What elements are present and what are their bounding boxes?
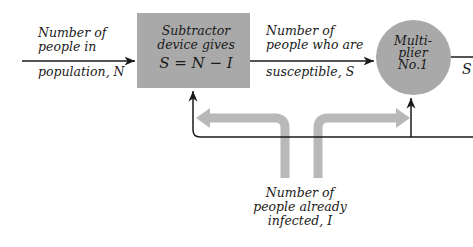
subtractor-label: Subtractor device gives S = N − I [157,24,235,70]
input-label-bottom: population, N [38,65,125,79]
susceptible-label-bottom: susceptible, S [266,65,354,79]
input-label: Number of people in [38,26,106,54]
infected-flow-arrows [208,118,398,178]
multiplier-label: Multi- plier No.1 [384,35,442,71]
infected-label: Number of people already infected, I [240,186,360,228]
susceptible-label: Number of people who are [266,24,363,52]
output-label: S [462,62,472,76]
